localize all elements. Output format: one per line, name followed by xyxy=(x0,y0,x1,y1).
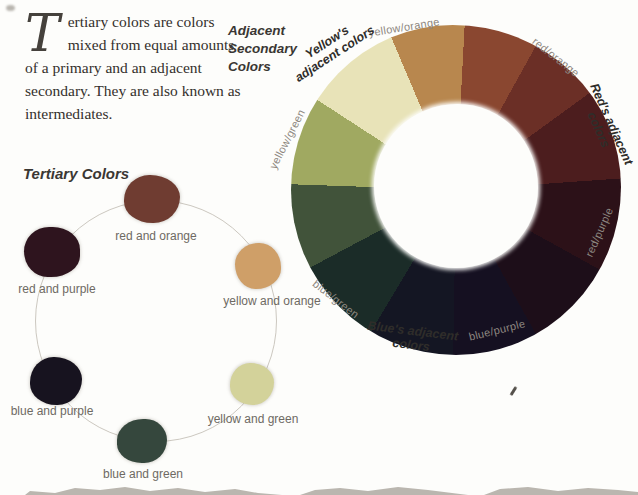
swatch-red-and-purple xyxy=(24,227,80,277)
pen-mark xyxy=(510,386,518,396)
swatch-red-and-orange xyxy=(124,175,180,223)
swatch-label-yellow-and-orange: yellow and orange xyxy=(223,294,320,308)
swatch-label-blue-and-green: blue and green xyxy=(103,467,183,481)
corner-smudge xyxy=(6,5,15,11)
drop-cap: T xyxy=(25,12,60,54)
swatch-blue-and-green xyxy=(117,419,167,463)
intro-paragraph: Tertiary colors are colors mixed from eq… xyxy=(25,10,241,125)
swatch-label-red-and-purple: red and purple xyxy=(18,282,95,296)
swatch-label-red-and-orange: red and orange xyxy=(115,229,196,243)
tertiary-colors-heading: Tertiary Colors xyxy=(23,165,129,182)
swatch-yellow-and-orange xyxy=(235,243,281,289)
wheel-center-hole xyxy=(374,104,538,268)
swatch-label-yellow-and-green: yellow and green xyxy=(208,412,299,426)
swatch-yellow-and-green xyxy=(230,363,274,405)
torn-paper-edge xyxy=(0,484,638,495)
swatch-blue-and-purple xyxy=(30,357,82,405)
swatch-label-blue-and-purple: blue and purple xyxy=(11,404,94,418)
book-page: Tertiary colors are colors mixed from eq… xyxy=(0,0,638,495)
